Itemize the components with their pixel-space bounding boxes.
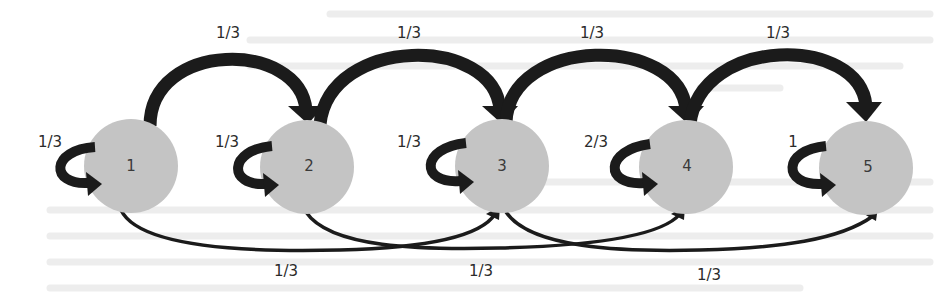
node-2: 2 — [260, 120, 354, 214]
node-5: 5 — [819, 121, 913, 215]
label-edge-1-to-3: 1/3 — [274, 262, 298, 280]
node-3-label: 3 — [497, 157, 507, 175]
markov-chain-diagram: 1 2 3 4 5 — [0, 0, 947, 306]
label-edge-1-to-2: 1/3 — [216, 24, 240, 42]
node-1-label: 1 — [126, 157, 136, 175]
label-self-loop-3: 1/3 — [397, 133, 421, 151]
label-self-loop-2: 1/3 — [215, 133, 239, 151]
label-self-loop-1: 1/3 — [38, 133, 62, 151]
label-edge-4-to-5: 1/3 — [766, 24, 790, 42]
node-3: 3 — [455, 119, 549, 213]
label-self-loop-4: 2/3 — [584, 133, 608, 151]
label-edge-2-to-4: 1/3 — [469, 262, 493, 280]
label-self-loop-5: 1 — [788, 133, 798, 151]
node-5-label: 5 — [863, 158, 873, 176]
node-4: 4 — [639, 120, 733, 214]
label-edge-2-to-3: 1/3 — [397, 24, 421, 42]
node-1: 1 — [84, 119, 178, 213]
node-2-label: 2 — [304, 157, 314, 175]
label-edge-3-to-5: 1/3 — [697, 266, 721, 284]
label-edge-3-to-4: 1/3 — [580, 24, 604, 42]
node-4-label: 4 — [682, 157, 692, 175]
